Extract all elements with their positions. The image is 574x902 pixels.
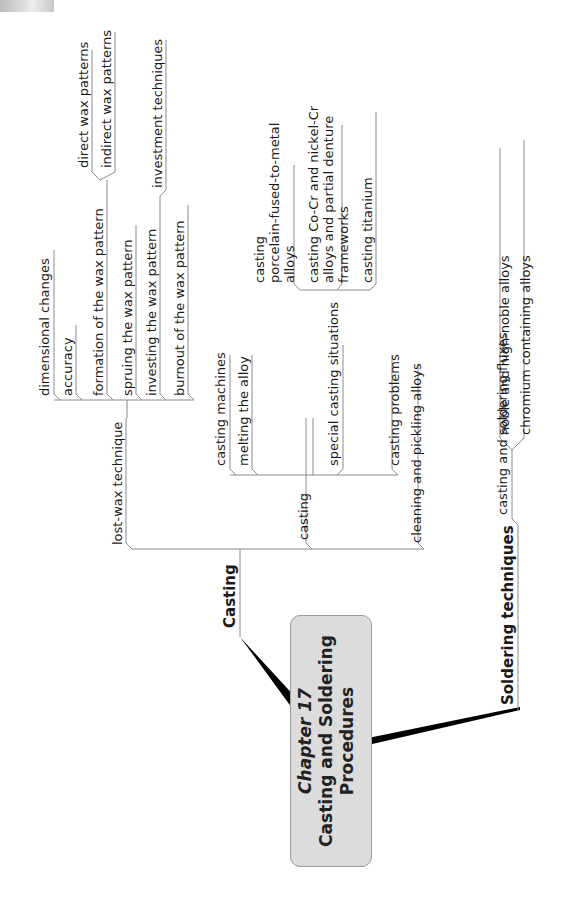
node-spruing: spruing the wax pattern [120, 239, 135, 396]
node-casting-cocr: casting Co-Cr and nickel-Cr alloys and p… [306, 106, 351, 283]
node-melting-alloy: melting the alloy [236, 356, 251, 466]
node-burnout: burnout of the wax pattern [172, 220, 187, 396]
node-casting-sub: casting [296, 493, 311, 540]
node-chromium-alloys: chromium containing alloys [518, 255, 533, 435]
central-topic: Chapter 17 Casting and Soldering Procedu… [290, 615, 372, 867]
node-investment-techniques: investment techniques [150, 39, 165, 188]
node-indirect-wax: indirect wax patterns [99, 30, 114, 168]
node-investing: investing the wax pattern [144, 229, 159, 396]
node-casting-titanium: casting titanium [360, 177, 375, 283]
branch-soldering: Soldering techniques [500, 525, 517, 705]
chapter-title-line2: Procedures [337, 620, 358, 862]
node-noble-alloys: noble and high-noble alloys [497, 255, 512, 435]
central-topic-label: Chapter 17 Casting and Soldering Procedu… [295, 620, 358, 862]
chapter-title-line1: Casting and Soldering [316, 620, 337, 862]
node-lost-wax: lost-wax technique [110, 422, 125, 545]
branch-casting: Casting [222, 564, 239, 628]
node-formation: formation of the wax pattern [91, 208, 106, 396]
node-cleaning-pickling: cleaning and pickling alloys [409, 363, 424, 543]
chapter-number: Chapter 17 [295, 620, 316, 862]
node-casting-problems: casting problems [387, 354, 402, 466]
node-dimensional-changes: dimensional changes [37, 258, 52, 396]
node-casting-pfm: casting porcelain-fused-to-metal alloys [252, 123, 297, 283]
node-casting-machines: casting machines [213, 352, 228, 466]
node-special-situations: special casting situations [326, 302, 341, 466]
node-direct-wax: direct wax patterns [76, 42, 91, 168]
soldering-connector [368, 707, 520, 745]
node-accuracy: accuracy [60, 337, 75, 396]
